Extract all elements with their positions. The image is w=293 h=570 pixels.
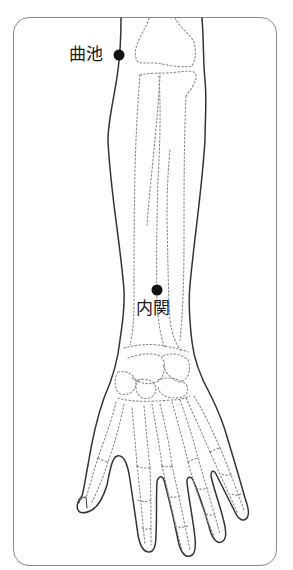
acupoint-neiguan-marker bbox=[152, 285, 163, 296]
forearm-hand-illustration bbox=[0, 0, 293, 570]
acupoint-quchi-marker bbox=[114, 50, 125, 61]
arm-outline bbox=[77, 18, 248, 556]
acupoint-neiguan-label: 内関 bbox=[136, 300, 170, 317]
acupoint-quchi-label: 曲池 bbox=[69, 46, 103, 63]
